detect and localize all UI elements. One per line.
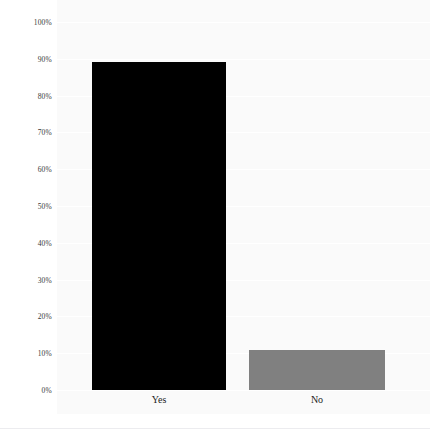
x-tick-label-yes: Yes xyxy=(152,394,167,405)
gridline-0 xyxy=(57,390,430,391)
y-tick-label-90: 90% xyxy=(0,54,52,63)
gridline-90 xyxy=(57,59,430,60)
y-tick-label-70: 70% xyxy=(0,128,52,137)
y-tick-label-0: 0% xyxy=(0,386,52,395)
y-tick-label-80: 80% xyxy=(0,91,52,100)
y-tick-label-60: 60% xyxy=(0,165,52,174)
bar-chart: 100%90%80%70%60%50%40%30%20%10%0% YesNo xyxy=(0,0,430,434)
y-axis: 100%90%80%70%60%50%40%30%20%10%0% xyxy=(0,0,52,414)
bar-yes[interactable] xyxy=(92,62,226,390)
plot-area xyxy=(57,0,430,414)
y-tick-label-50: 50% xyxy=(0,202,52,211)
y-tick-label-40: 40% xyxy=(0,238,52,247)
x-tick-label-no: No xyxy=(311,394,323,405)
bar-no[interactable] xyxy=(249,350,385,390)
y-tick-label-20: 20% xyxy=(0,312,52,321)
y-tick-label-30: 30% xyxy=(0,275,52,284)
bottom-divider xyxy=(0,428,430,429)
y-tick-label-100: 100% xyxy=(0,18,52,27)
y-tick-label-10: 10% xyxy=(0,349,52,358)
gridline-100 xyxy=(57,22,430,23)
